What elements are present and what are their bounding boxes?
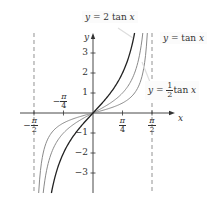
x-axis-label: x (178, 114, 183, 123)
denominator: 4 (120, 126, 125, 134)
y-tick-label: 3 (82, 48, 88, 57)
y-tick-label: −2 (75, 148, 88, 157)
fraction: π4 (60, 93, 67, 110)
y-tick-label: −1 (75, 128, 88, 137)
y-tick-label: −3 (75, 168, 88, 177)
label-half-tan-x: y = 12tan x (145, 81, 199, 100)
label-tan-x: y = tan x (160, 32, 207, 44)
label-x: x (199, 33, 204, 43)
label-x: x (130, 12, 135, 22)
y-axis-arrow-icon (91, 33, 95, 39)
label-eq: = tan (168, 33, 199, 43)
y-tick-label: 1 (82, 88, 88, 97)
x-tick-label: π2 (148, 117, 155, 134)
label-eq: = 2 tan (90, 12, 130, 22)
x-axis-arrow-icon (169, 111, 175, 115)
label-x: x (191, 85, 196, 95)
x-tick-label: π4 (119, 117, 126, 134)
x-tick-label: −π2 (23, 117, 38, 134)
denominator: 4 (61, 102, 66, 110)
fraction: π2 (31, 117, 38, 134)
label-eq-tail: tan (173, 85, 191, 95)
y-tick-label: 2 (82, 68, 88, 77)
denominator: 2 (32, 126, 37, 134)
minus-sign: − (53, 96, 61, 106)
y-axis-label: y (84, 33, 89, 42)
denominator: 2 (149, 126, 154, 134)
x-tick-label: −π4 (53, 93, 68, 110)
leader-two-tan (118, 28, 133, 38)
label-two-tan-x: y = 2 tan x (82, 11, 138, 23)
fraction: π4 (119, 117, 126, 134)
label-eq: = (153, 85, 166, 95)
fraction: π2 (148, 117, 155, 134)
minus-sign: − (23, 120, 31, 130)
denominator: 2 (167, 91, 172, 99)
